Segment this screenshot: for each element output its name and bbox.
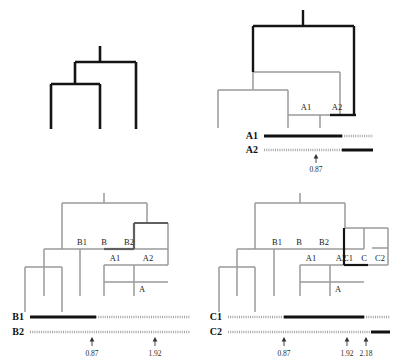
node-label-a-panel-c: A <box>139 284 146 294</box>
node-label-b1: B1 <box>77 237 87 247</box>
node-label-b: B <box>101 237 107 247</box>
tick-label-087-panel-c: 0.87 <box>85 349 98 358</box>
sequence-label-b1: B1 <box>12 311 24 322</box>
tick-label-218-panel-d: 2.18 <box>359 349 372 358</box>
figure-canvas: A1 A2 A1 A2 0.87 <box>0 0 405 364</box>
tick-label-087-panel-b: 0.87 <box>309 165 322 174</box>
sequence-label-a1: A1 <box>246 130 258 141</box>
figure-svg: A1 A2 A1 A2 0.87 <box>0 0 405 364</box>
node-label-a2: A2 <box>332 102 342 112</box>
tick-label-192-panel-d: 1.92 <box>340 349 353 358</box>
figure-background <box>0 0 405 364</box>
node-label-b2: B2 <box>124 237 134 247</box>
node-label-a2-panel-d: A2 <box>336 253 346 263</box>
sequence-label-c1: C1 <box>210 311 222 322</box>
node-label-b2-panel-d: B2 <box>319 237 329 247</box>
node-label-c: C <box>361 253 367 263</box>
sequence-label-a2: A2 <box>246 144 258 155</box>
node-label-a1-panel-c: A1 <box>110 253 120 263</box>
tick-label-087-panel-d: 0.87 <box>277 349 290 358</box>
node-label-b-panel-d: B <box>296 237 302 247</box>
node-label-b1-panel-d: B1 <box>272 237 282 247</box>
node-label-a2-panel-c: A2 <box>143 253 153 263</box>
node-label-a-panel-d: A <box>335 284 342 294</box>
node-label-a1: A1 <box>301 102 311 112</box>
sequence-label-c2: C2 <box>210 326 222 337</box>
node-label-c2: C2 <box>375 253 385 263</box>
sequence-label-b2: B2 <box>12 326 24 337</box>
tick-label-192-panel-c: 1.92 <box>148 349 161 358</box>
node-label-a1-panel-d: A1 <box>306 253 316 263</box>
